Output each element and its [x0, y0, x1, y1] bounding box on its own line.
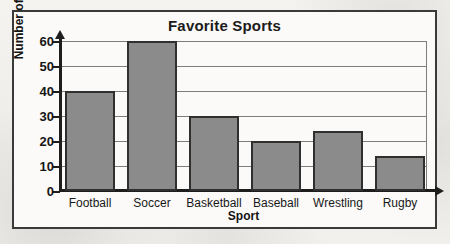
y-axis-tick-labels-group: 6050403020100 [26, 41, 54, 191]
plot-area: 6050403020100 FootballSoccerBasketballBa… [60, 41, 427, 191]
y-axis-tick-label: 10 [32, 159, 54, 174]
bar-basketball [189, 116, 239, 191]
y-axis-tick-label: 50 [32, 59, 54, 74]
gridline [60, 166, 427, 167]
y-axis-line [59, 34, 62, 192]
gridline [60, 41, 427, 42]
y-axis-tick-label: 30 [32, 109, 54, 124]
chart-title: Favorite Sports [14, 17, 435, 34]
y-axis-tick-label: 0 [32, 184, 54, 199]
category-label-soccer: Soccer [133, 196, 170, 210]
category-label-football: Football [69, 196, 112, 210]
bar-football [65, 91, 115, 191]
category-label-basketball: Basketball [186, 196, 241, 210]
bar-baseball [251, 141, 301, 191]
y-axis-arrow-icon [55, 30, 65, 39]
gridline [60, 116, 427, 117]
chart-frame: Favorite Sports Number of Students 60504… [12, 10, 437, 229]
gridline [60, 141, 427, 142]
bar-wrestling [313, 131, 363, 191]
plot-right-edge [426, 41, 427, 191]
y-axis-tick-label: 60 [32, 34, 54, 49]
bar-rugby [375, 156, 425, 191]
category-label-baseball: Baseball [253, 196, 299, 210]
category-label-wrestling: Wrestling [313, 196, 363, 210]
x-axis-arrow-icon [435, 186, 444, 196]
gridline [60, 91, 427, 92]
gridline [60, 66, 427, 67]
y-axis-tick-label: 20 [32, 134, 54, 149]
category-label-rugby: Rugby [383, 196, 418, 210]
x-axis-title: Sport [60, 209, 427, 223]
y-axis-title: Number of Students [12, 0, 26, 62]
bar-soccer [127, 41, 177, 191]
y-axis-tick-label: 40 [32, 84, 54, 99]
